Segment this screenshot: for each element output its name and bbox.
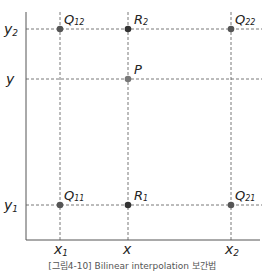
label-q11: Q11	[64, 188, 84, 203]
point-p	[125, 76, 132, 83]
y2-label: y2	[3, 21, 18, 38]
x2-label: x2	[224, 241, 239, 258]
label-p: P	[134, 62, 142, 77]
label-q22: Q22	[235, 12, 255, 27]
label-q21: Q21	[235, 188, 255, 203]
label-r2: R2	[134, 12, 148, 27]
label-q12: Q12	[64, 12, 84, 27]
point-q11	[57, 202, 64, 209]
y-label: y	[5, 71, 15, 87]
y1-label: y1	[3, 197, 18, 214]
bilinear-diagram: y2 y y1 x1 x x2 Q12 R2 Q22 P Q11 R1 Q21	[0, 0, 264, 279]
point-q12	[57, 26, 64, 33]
x1-label: x1	[53, 241, 68, 258]
x-label: x	[122, 241, 132, 257]
point-q22	[228, 26, 235, 33]
label-r1: R1	[134, 188, 148, 203]
point-q21	[228, 202, 235, 209]
figure-caption: [그림4-10] Bilinear interpolation 보간법	[0, 259, 264, 272]
point-r2	[125, 26, 132, 33]
point-r1	[125, 202, 132, 209]
